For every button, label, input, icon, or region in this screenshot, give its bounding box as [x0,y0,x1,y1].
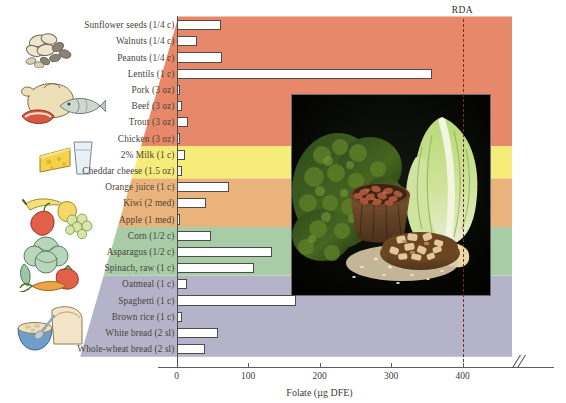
bar [177,69,433,79]
category-label: Pork (3 oz) [132,85,175,95]
axis-break-icon [516,354,532,370]
category-label: Peanuts (1/4 c) [117,53,174,63]
category-label: Orange juice (1 c) [105,182,174,192]
x-tick [320,363,321,367]
x-tick-label: 200 [312,371,326,381]
category-label: Spinach, raw (1 c) [105,263,175,273]
category-label: White bread (2 sl) [105,328,174,338]
bar [177,182,230,192]
nuts-and-seeds-clipart [22,30,80,68]
bar [177,52,223,62]
category-label: Walnuts (1/4 c) [116,36,175,46]
category-label: Kiwi (2 med) [123,198,174,208]
y-axis-line [177,16,178,367]
bar [177,328,218,338]
folate-rich-foods-photo [291,94,491,296]
x-tick [177,363,178,367]
bar [177,295,296,305]
vegetables-clipart [14,236,100,292]
bar [177,150,186,160]
category-label: Spaghetti (1 c) [118,296,174,306]
fruit-basket-clipart [20,192,98,240]
x-tick [248,363,249,367]
meat-poultry-fish-clipart [14,78,106,128]
category-label: Corn (1/2 c) [128,231,175,241]
category-label: Brown rice (1 c) [112,312,175,322]
bar [177,247,273,257]
category-label: Lentils (1 c) [128,69,175,79]
category-label: 2% Milk (1 c) [121,150,175,160]
category-label: Cheddar cheese (1.5 oz) [82,166,174,176]
category-label: Oatmeal (1 c) [122,279,174,289]
x-axis-title: Folate (µg DFE) [286,387,352,398]
rda-label: RDA [452,5,473,15]
bar [177,279,187,289]
category-label: Beef (3 oz) [132,101,175,111]
bar [177,36,197,46]
category-label: Sunflower seeds (1/4 c) [84,20,174,30]
bar [177,344,206,354]
x-tick [391,363,392,367]
folate-food-sources-chart: Sunflower seeds (1/4 c)Walnuts (1/4 c)Pe… [0,0,566,403]
bar [177,20,221,30]
category-label: Whole-wheat bread (2 sl) [77,344,174,354]
x-tick-label: 300 [384,371,398,381]
rda-reference-line [463,19,464,367]
bar [177,231,211,241]
category-label: Chicken (3 oz) [118,134,175,144]
x-tick-label: 100 [241,371,255,381]
x-tick [463,363,464,367]
x-tick-label: 0 [174,371,179,381]
bar [177,198,206,208]
category-label: Trout (3 oz) [129,117,175,127]
x-axis-line [158,367,554,368]
category-label: Asparagus (1/2 c) [107,247,175,257]
bar [177,263,254,273]
bar [177,117,188,127]
x-tick-label: 400 [455,371,469,381]
category-label: Apple (1 med) [119,215,175,225]
